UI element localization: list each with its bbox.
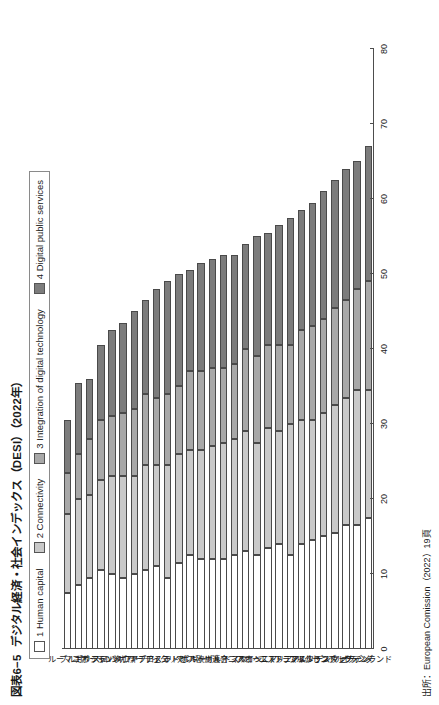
legend-item: 1 Human capital (34, 568, 45, 652)
legend-swatch-icon (34, 283, 45, 294)
chart-legend: 1 Human capital2 Connectivity3 Integrati… (29, 171, 50, 659)
axis-tick (370, 273, 374, 274)
axis-tick-label: 30 (379, 419, 389, 429)
axis-tick-label: 70 (379, 119, 389, 129)
axis-tick (370, 648, 374, 649)
axis-tick-label: 80 (379, 44, 389, 54)
figure-title-text: デジタル経済・社会インデックス（DESI）（2022年） (11, 375, 23, 647)
legend-item-label: 4 Digital public services (34, 180, 45, 279)
axis-tick-label: 20 (379, 494, 389, 504)
figure-canvas: 図表6−5デジタル経済・社会インデックス（DESI）（2022年） 1 Huma… (0, 0, 439, 705)
legend-item: 4 Digital public services (34, 180, 45, 294)
legend-swatch-icon (34, 641, 45, 652)
chart-plot-area: ルーマニアブルガリアギリシャポーランドスロバキアハンガリークロアチアキプロスチェ… (62, 49, 374, 649)
axis-tick-label: 60 (379, 194, 389, 204)
legend-item-label: 2 Connectivity (34, 479, 45, 539)
legend-item-label: 1 Human capital (34, 568, 45, 637)
figure-number: 図表6−5 (11, 654, 23, 697)
category-label: フィンランド (344, 652, 392, 664)
axis-tick (370, 348, 374, 349)
legend-item: 2 Connectivity (34, 479, 45, 554)
legend-item: 3 Integration of digital technology (34, 309, 45, 463)
page-title: 図表6−5デジタル経済・社会インデックス（DESI）（2022年） (8, 375, 24, 697)
axis-tick (370, 498, 374, 499)
axis-tick-label: 40 (379, 344, 389, 354)
axis-tick (370, 573, 374, 574)
axis-tick (370, 123, 374, 124)
axis-tick (370, 48, 374, 49)
axis-tick-label: 0 (379, 646, 389, 651)
axis-tick (370, 423, 374, 424)
source-note: 出所：European Comission（2022）19頁 (420, 529, 433, 697)
axis-tick (370, 198, 374, 199)
legend-item-label: 3 Integration of digital technology (34, 309, 45, 448)
category-labels: ルーマニアブルガリアギリシャポーランドスロバキアハンガリークロアチアキプロスチェ… (62, 49, 374, 649)
axis-tick-label: 10 (379, 569, 389, 579)
axis-tick-label: 50 (379, 269, 389, 279)
legend-swatch-icon (34, 453, 45, 464)
legend-swatch-icon (34, 542, 45, 553)
